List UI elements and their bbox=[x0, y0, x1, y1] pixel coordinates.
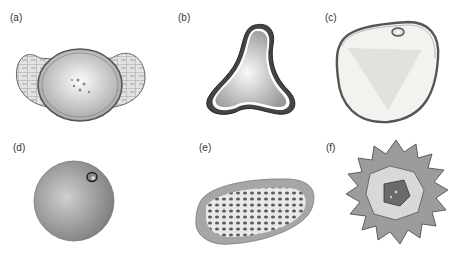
panel-d: (d) bbox=[0, 130, 158, 257]
triangular-grain-illustration bbox=[158, 0, 316, 128]
panel-a: (a) bbox=[0, 0, 158, 128]
reticulate-grain-illustration bbox=[158, 130, 316, 257]
echinate-grain-illustration bbox=[316, 130, 474, 257]
porate-grain-illustration bbox=[316, 0, 474, 128]
bisaccate-grain-illustration bbox=[0, 0, 158, 128]
panel-b: (b) bbox=[158, 0, 316, 128]
spherical-grain-illustration bbox=[0, 130, 158, 257]
panel-e: (e) bbox=[158, 130, 316, 257]
panel-c: (c) bbox=[316, 0, 474, 128]
panel-f: (f) bbox=[316, 130, 474, 257]
